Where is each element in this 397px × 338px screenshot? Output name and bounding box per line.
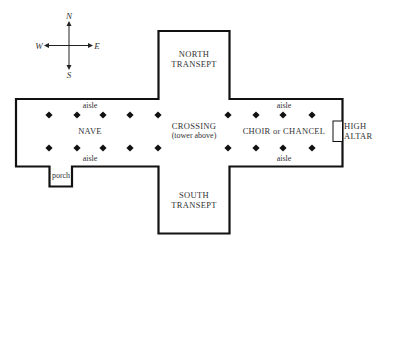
choir-chancel-label: CHOIR or CHANCEL xyxy=(243,126,326,136)
pillar-icon xyxy=(126,144,133,151)
nave-label: NAVE xyxy=(78,126,102,136)
porch-label: porch xyxy=(52,171,70,180)
pillar-icon xyxy=(308,111,315,118)
cathedral-floor-plan: N S W E NORTH TRANSEPT SOUTH TRANSEPT CR… xyxy=(0,0,397,338)
crossing-label: CROSSING xyxy=(172,121,216,131)
pillar-icon xyxy=(252,144,259,151)
compass-west-label: W xyxy=(35,41,44,51)
pillar-icon xyxy=(73,144,80,151)
pillar-icon xyxy=(45,111,52,118)
pillar-icon xyxy=(252,111,259,118)
pillar-icon xyxy=(224,144,231,151)
high-altar-label-line1: HIGH xyxy=(344,121,366,131)
compass-north-label: N xyxy=(65,11,73,21)
choir-south-aisle-label: aisle xyxy=(277,154,292,163)
compass-east-label: E xyxy=(93,41,100,51)
pillar-icon xyxy=(126,111,133,118)
pillar-icon xyxy=(154,111,161,118)
pillar-icon xyxy=(99,144,106,151)
compass-south-label: S xyxy=(67,70,72,80)
nave-north-aisle-label: aisle xyxy=(83,101,98,110)
pillar-icon xyxy=(279,144,286,151)
pillar-icon xyxy=(99,111,106,118)
high-altar-label-line2: ALTAR xyxy=(344,131,372,141)
crossing-sublabel: (tower above) xyxy=(172,131,217,140)
compass-icon xyxy=(44,21,93,70)
north-transept-label-line1: NORTH xyxy=(179,49,209,59)
south-transept-label-line1: SOUTH xyxy=(179,190,209,200)
south-transept-label-line2: TRANSEPT xyxy=(171,200,217,210)
high-altar-box xyxy=(333,121,343,142)
pillar-icon xyxy=(224,111,231,118)
pillar-icon xyxy=(154,144,161,151)
pillar-icon xyxy=(308,144,315,151)
north-transept-label-line2: TRANSEPT xyxy=(171,59,217,69)
choir-north-aisle-label: aisle xyxy=(277,101,292,110)
pillar-icon xyxy=(45,144,52,151)
pillar-icon xyxy=(279,111,286,118)
pillar-icon xyxy=(73,111,80,118)
nave-south-aisle-label: aisle xyxy=(83,154,98,163)
